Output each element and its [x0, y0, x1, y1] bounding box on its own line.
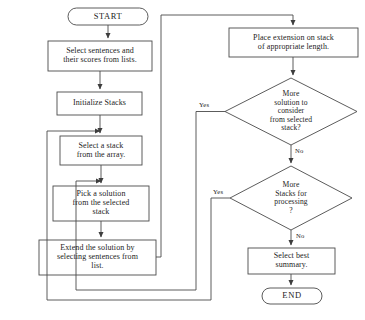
- node-shape-select-stack: [60, 136, 142, 165]
- node-shape-pick-solution: [53, 186, 149, 221]
- edge-label-more-stacks-yes: Yes: [213, 188, 223, 195]
- edge-more-solution-yes-to-pick-solution: [76, 112, 225, 291]
- node-shape-initialize-stacks: [57, 92, 142, 115]
- node-shape-place-extension: [229, 28, 358, 57]
- node-shape-end: [262, 288, 322, 304]
- node-shape-more-solution: [225, 78, 357, 145]
- node-shape-select-sentences: [48, 41, 152, 71]
- node-shape-more-stacks: [230, 166, 352, 230]
- edge-label-more-solution-yes: Yes: [199, 101, 209, 108]
- node-shape-extend-solution: [39, 240, 156, 275]
- edge-label-more-stacks-no: No: [296, 232, 304, 239]
- flowchart-graphics: [0, 0, 365, 320]
- edge-label-more-solution-no: No: [295, 147, 303, 154]
- node-shape-select-best: [248, 248, 335, 274]
- node-shape-start: [68, 8, 148, 25]
- flowchart-canvas: START Select sentences and their scores …: [0, 0, 365, 320]
